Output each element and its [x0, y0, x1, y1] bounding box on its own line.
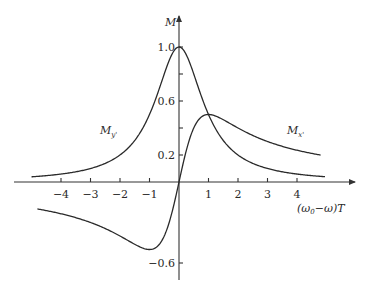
x-tick-label: −1: [141, 188, 157, 201]
curve-my: [32, 47, 326, 177]
labels: M(ω0−ω)TMy'Mx': [99, 16, 346, 216]
y-tick-label: 0.6: [158, 95, 176, 108]
x-tick-label: 2: [235, 188, 242, 201]
series-label-mx: Mx': [286, 124, 304, 139]
chart: −4−3−2−112341.00.60.2−0.6 M(ω0−ω)TMy'Mx': [0, 0, 367, 288]
x-tick-label: −2: [112, 188, 128, 201]
x-tick-label: 1: [205, 188, 212, 201]
y-axis-label: M: [164, 16, 177, 29]
x-axis-label: (ω0−ω)T: [297, 202, 346, 216]
y-tick-label: 1.0: [158, 41, 176, 54]
y-tick-label: −0.6: [148, 257, 175, 270]
x-tick-label: −4: [53, 188, 69, 201]
x-tick-label: 3: [264, 188, 271, 201]
y-tick-label: 0.2: [158, 149, 176, 162]
x-tick-label: 4: [294, 188, 301, 201]
x-tick-label: −3: [82, 188, 98, 201]
axes: [14, 16, 355, 280]
series-label-my: My': [99, 124, 117, 139]
curves: [32, 47, 326, 249]
chart-svg: −4−3−2−112341.00.60.2−0.6 M(ω0−ω)TMy'Mx': [0, 0, 367, 288]
ticks: −4−3−2−112341.00.60.2−0.6: [53, 41, 301, 270]
